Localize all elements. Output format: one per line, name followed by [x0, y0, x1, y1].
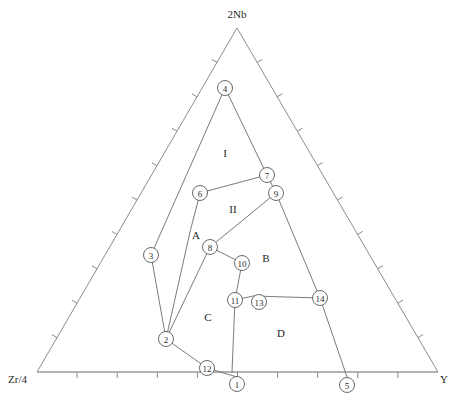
tick-left-edge: [72, 300, 77, 303]
corner-label-apex: 2Nb: [228, 8, 247, 20]
corner-labels: 2Nb Zr/4 Y: [8, 8, 448, 385]
invariant-point-2[interactable]: 2: [159, 332, 174, 347]
tick-right-edge: [338, 197, 343, 200]
phase-boundary-node6-to-node2: [166, 193, 200, 339]
phase-boundary-node9-to-node14-to-node5: [276, 193, 347, 377]
point-label-11: 11: [231, 296, 240, 306]
tick-left-edge: [152, 163, 157, 166]
axis-tick-marks: [52, 59, 423, 378]
point-label-6: 6: [198, 189, 203, 199]
tick-left-edge: [92, 266, 97, 269]
tick-right-edge: [358, 231, 363, 234]
tick-right-edge: [297, 128, 302, 131]
point-label-9: 9: [274, 189, 279, 199]
region-label-II: II: [229, 203, 237, 215]
phase-boundary-node11-to-node13-to-node14: [235, 296, 320, 300]
tick-right-edge: [277, 94, 282, 97]
triangle-edges: [37, 28, 438, 372]
tick-left-edge: [52, 335, 57, 338]
phase-boundary-lines: [151, 88, 347, 377]
invariant-point-13[interactable]: 13: [252, 295, 267, 310]
point-label-14: 14: [316, 294, 326, 304]
point-label-7: 7: [265, 171, 270, 181]
region-label-A: A: [192, 229, 200, 241]
tick-right-edge: [378, 266, 383, 269]
invariant-point-11[interactable]: 11: [228, 293, 243, 308]
point-label-1: 1: [235, 380, 240, 390]
corner-label-left: Zr/4: [8, 373, 27, 385]
tick-left-edge: [132, 197, 137, 200]
region-label-B: B: [262, 252, 269, 264]
point-label-4: 4: [223, 84, 228, 94]
tick-right-edge: [398, 300, 403, 303]
invariant-point-4[interactable]: 4: [218, 81, 233, 96]
corner-label-right: Y: [440, 373, 448, 385]
region-label-I: I: [223, 147, 227, 159]
region-label-D: D: [277, 327, 285, 339]
point-label-3: 3: [149, 251, 154, 261]
invariant-point-5[interactable]: 5: [340, 378, 355, 393]
tick-right-edge: [317, 163, 322, 166]
invariant-point-14[interactable]: 14: [313, 291, 328, 306]
ternary-phase-diagram: IIIABCD 1234567891011121314 2Nb Zr/4 Y: [0, 0, 453, 403]
invariant-point-8[interactable]: 8: [203, 240, 218, 255]
tick-right-edge: [257, 59, 262, 62]
point-label-10: 10: [238, 259, 248, 269]
invariant-point-3[interactable]: 3: [144, 248, 159, 263]
invariant-point-1[interactable]: 1: [230, 377, 245, 392]
invariant-point-9[interactable]: 9: [269, 186, 284, 201]
point-label-8: 8: [208, 243, 213, 253]
phase-boundary-apex-4-to-3-to-2: [151, 88, 225, 339]
invariant-point-6[interactable]: 6: [193, 186, 208, 201]
tick-left-edge: [212, 59, 217, 62]
phase-boundary-node6-to-node7: [200, 175, 267, 193]
phase-boundary-node11-to-bottom-axis: [232, 300, 235, 372]
region-label-C: C: [204, 311, 211, 323]
ternary-diagram-canvas: IIIABCD 1234567891011121314 2Nb Zr/4 Y: [0, 0, 453, 403]
point-label-12: 12: [203, 364, 212, 374]
point-label-2: 2: [164, 335, 169, 345]
invariant-point-10[interactable]: 10: [235, 256, 250, 271]
tick-right-edge: [418, 335, 423, 338]
tick-left-edge: [192, 94, 197, 97]
point-label-13: 13: [255, 298, 265, 308]
tick-left-edge: [172, 128, 177, 131]
point-label-5: 5: [345, 381, 350, 391]
phase-boundary-node8-to-node10-to-node11: [210, 247, 242, 300]
invariant-point-12[interactable]: 12: [200, 361, 215, 376]
invariant-point-7[interactable]: 7: [260, 168, 275, 183]
tick-left-edge: [112, 231, 117, 234]
